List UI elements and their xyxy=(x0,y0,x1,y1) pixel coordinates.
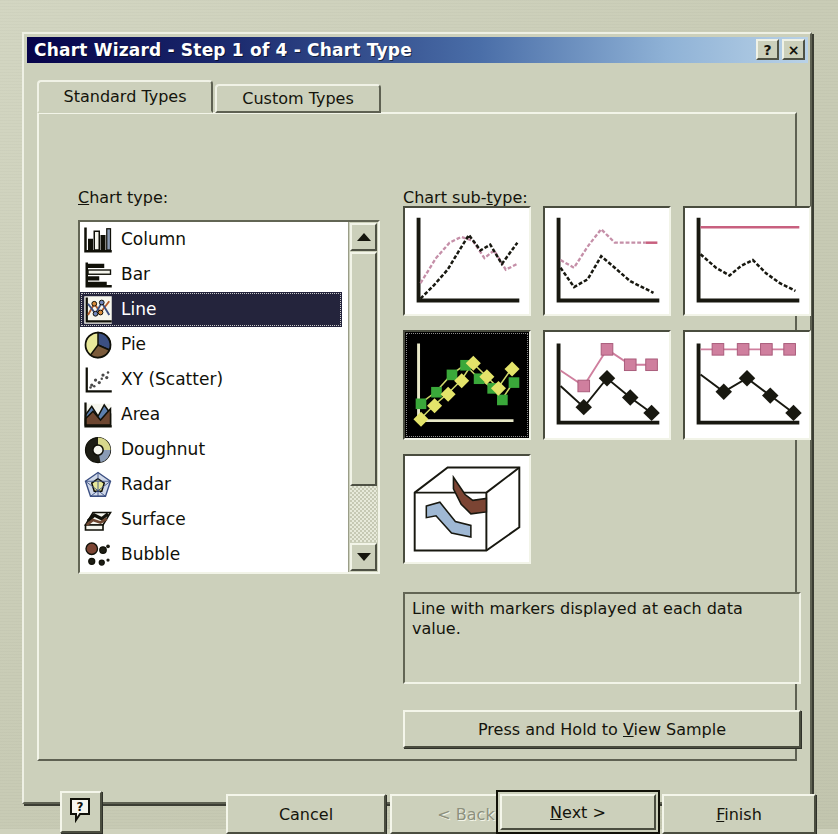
list-item-label: Line xyxy=(121,301,156,318)
window-title: Chart Wizard - Step 1 of 4 - Chart Type xyxy=(34,40,412,60)
list-item[interactable]: Column xyxy=(80,222,348,257)
scroll-up-arrow-icon[interactable] xyxy=(350,223,377,251)
list-item-label: Area xyxy=(121,406,160,423)
chart-type-listbox[interactable]: Column Bar xyxy=(78,220,380,574)
tab-custom-types[interactable]: Custom Types xyxy=(215,84,381,113)
next-label: Next > xyxy=(550,803,606,822)
tab-strip: Standard Types Custom Types xyxy=(37,82,797,113)
tab-custom-types-label: Custom Types xyxy=(242,89,353,108)
list-item[interactable]: Surface xyxy=(80,502,348,537)
tab-standard-types-label: Standard Types xyxy=(64,87,187,106)
list-item-selected[interactable]: Line xyxy=(80,292,342,327)
list-item-label: Pie xyxy=(121,336,146,353)
chart-wizard-dialog: Chart Wizard - Step 1 of 4 - Chart Type … xyxy=(22,32,812,804)
subtype-stacked-line-with-markers[interactable] xyxy=(543,330,671,440)
chart-subtype-label: Chart sub-type: xyxy=(403,188,528,207)
bar-chart-icon xyxy=(83,261,113,289)
view-sample-button[interactable]: Press and Hold to View Sample xyxy=(403,710,801,748)
cancel-label: Cancel xyxy=(279,805,333,824)
subtype-100-stacked-line[interactable] xyxy=(683,206,811,316)
list-item-label: XY (Scatter) xyxy=(121,371,223,388)
area-chart-icon xyxy=(83,401,113,429)
help-titlebar-icon[interactable]: ? xyxy=(756,39,779,60)
help-button[interactable]: ? xyxy=(60,791,102,833)
close-icon[interactable]: × xyxy=(782,39,805,60)
surface-chart-icon xyxy=(83,506,113,534)
list-item-label: Surface xyxy=(121,511,186,528)
chart-subtype-grid xyxy=(403,206,813,550)
pie-chart-icon xyxy=(83,331,113,359)
list-item-label: Bar xyxy=(121,266,150,283)
help-icon: ? xyxy=(68,797,94,827)
list-item[interactable]: XY (Scatter) xyxy=(80,362,348,397)
list-item[interactable]: Stock xyxy=(80,572,348,574)
next-button[interactable]: Next > xyxy=(500,794,656,830)
back-label: < Back xyxy=(437,805,494,824)
cancel-button[interactable]: Cancel xyxy=(226,794,386,834)
list-item-label: Column xyxy=(121,231,186,248)
next-button-default-frame: Next > xyxy=(496,790,660,834)
title-bar[interactable]: Chart Wizard - Step 1 of 4 - Chart Type … xyxy=(27,37,808,63)
scatter-chart-icon xyxy=(83,366,113,394)
list-scrollbar[interactable] xyxy=(348,222,378,572)
subtype-line[interactable] xyxy=(403,206,531,316)
list-item-label: Radar xyxy=(121,476,171,493)
list-item[interactable]: Bar xyxy=(80,257,348,292)
svg-text:?: ? xyxy=(77,800,84,814)
column-chart-icon xyxy=(83,226,113,254)
subtype-line-with-markers-selected[interactable] xyxy=(403,330,531,440)
line-chart-icon xyxy=(83,296,113,324)
chart-type-label: Chart type: xyxy=(78,188,168,207)
title-bar-buttons: ? × xyxy=(756,39,805,60)
scroll-down-arrow-icon[interactable] xyxy=(350,543,377,571)
finish-label: Finish xyxy=(716,805,762,824)
subtype-3d-line[interactable] xyxy=(403,454,531,564)
subtype-description: Line with markers displayed at each data… xyxy=(403,592,801,684)
doughnut-chart-icon xyxy=(83,436,113,464)
finish-button[interactable]: Finish xyxy=(662,794,816,834)
bubble-chart-icon xyxy=(83,541,113,569)
list-item[interactable]: Bubble xyxy=(80,537,348,572)
list-item[interactable]: Doughnut xyxy=(80,432,348,467)
list-item[interactable]: Radar xyxy=(80,467,348,502)
view-sample-label: Press and Hold to View Sample xyxy=(478,720,726,739)
list-item[interactable]: Area xyxy=(80,397,348,432)
tab-standard-types[interactable]: Standard Types xyxy=(37,80,213,113)
list-item-label: Doughnut xyxy=(121,441,205,458)
radar-chart-icon xyxy=(83,471,113,499)
list-item-label: Bubble xyxy=(121,546,180,563)
chart-type-list: Column Bar xyxy=(80,222,348,572)
list-item[interactable]: Pie xyxy=(80,327,348,362)
subtype-stacked-line[interactable] xyxy=(543,206,671,316)
subtype-100-stacked-line-with-markers[interactable] xyxy=(683,330,811,440)
scrollbar-thumb[interactable] xyxy=(350,252,377,486)
